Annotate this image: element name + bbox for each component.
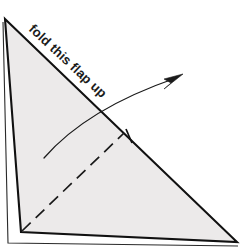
origami-fold-diagram: fold this flap up [0,0,242,251]
diagram-canvas: fold this flap up [0,0,242,251]
